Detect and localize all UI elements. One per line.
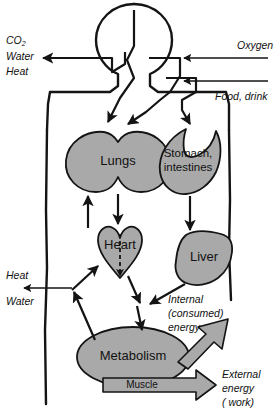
circulation-arrows — [24, 194, 190, 340]
label-co2: CO — [6, 34, 22, 46]
output-label-co2-water-heat: CO2 Water Heat — [6, 34, 34, 77]
organ-liver: Liver — [175, 231, 232, 285]
organ-heart: Heart — [98, 227, 142, 278]
label-external-energy: External energy ( work) — [222, 368, 261, 408]
airway-and-vessels — [43, 10, 196, 124]
label-external-line2: energy — [222, 382, 255, 394]
svg-text:CO2: CO2 — [6, 34, 26, 47]
label-external-line1: External — [222, 368, 261, 380]
muscle-label: Muscle — [126, 379, 158, 390]
label-internal-line1: Internal — [168, 293, 204, 305]
organ-label-lungs: Lungs — [100, 153, 136, 168]
organ-label-liver: Liver — [190, 249, 219, 264]
label-co2-subscript: 2 — [21, 40, 26, 47]
body-energy-flow-diagram: Lungs Stomach, intestines Heart Liver Me… — [0, 0, 276, 413]
label-water-mid: Water — [6, 295, 34, 307]
organ-label-metabolism: Metabolism — [100, 348, 166, 363]
organ-stomach-intestines: Stomach, intestines — [160, 129, 221, 194]
label-heat-top: Heat — [6, 65, 29, 77]
organ-label-stomach: Stomach, — [164, 147, 213, 159]
label-oxygen: Oxygen — [237, 39, 273, 51]
organ-lungs: Lungs — [66, 132, 170, 192]
label-internal-line3: energy — [168, 321, 201, 333]
label-external-line3: ( work) — [222, 396, 254, 408]
diagram-canvas: Lungs Stomach, intestines Heart Liver Me… — [0, 0, 276, 413]
label-internal-line2: (consumed) — [168, 307, 223, 319]
label-heat-mid: Heat — [6, 269, 29, 281]
label-water-top: Water — [6, 50, 34, 62]
organ-label-intestines: intestines — [164, 161, 213, 173]
label-food-drink: Food, drink — [215, 90, 268, 102]
